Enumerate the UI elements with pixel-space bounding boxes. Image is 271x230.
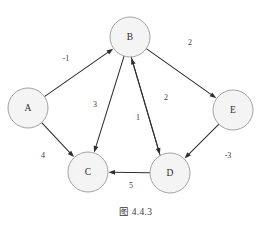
- edge-weight-d-b: 1: [136, 113, 140, 122]
- node-label-e: E: [230, 105, 236, 115]
- arrowhead-d-b: [131, 58, 136, 65]
- edge-weight-b-e: 2: [188, 38, 192, 47]
- edge-weight-a-b: -1: [63, 54, 70, 63]
- node-label-d: D: [166, 168, 173, 178]
- edge-a-c: [42, 123, 72, 155]
- edge-d-b: [132, 61, 160, 155]
- edge-weight-e-d: -3: [225, 151, 232, 160]
- arrowhead-b-e: [210, 92, 217, 98]
- edge-e-d: [187, 124, 219, 156]
- node-label-a: A: [24, 103, 31, 113]
- node-label-b: B: [127, 32, 134, 42]
- edge-weight-a-c: 4: [41, 151, 45, 160]
- graph-diagram: ABCDE -1432215-3: [0, 0, 271, 230]
- figure-container: ABCDE -1432215-3 图 4.4.3: [0, 0, 271, 230]
- node-label-c: C: [85, 167, 92, 177]
- edge-a-b: [44, 50, 110, 96]
- edge-weight-b-d: 2: [164, 93, 168, 102]
- edge-weight-b-c: 3: [93, 100, 97, 109]
- arrowhead-d-c: [108, 170, 115, 175]
- figure-caption: 图 4.4.3: [0, 204, 271, 218]
- nodes-layer: ABCDE: [8, 17, 253, 193]
- arrowhead-b-c: [94, 146, 99, 153]
- edge-b-c: [95, 56, 124, 149]
- arrowhead-a-b: [106, 49, 113, 55]
- edge-weight-d-c: 5: [129, 181, 133, 190]
- edges-layer: [42, 49, 219, 175]
- edge-b-e: [146, 49, 214, 97]
